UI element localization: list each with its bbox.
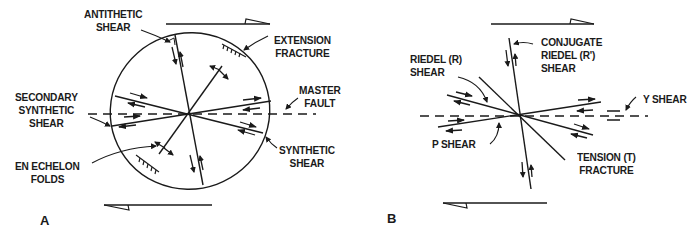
leader-p-shear	[490, 123, 499, 144]
panel-a-letter: A	[40, 213, 49, 228]
leader-antithetic	[141, 30, 170, 42]
label-synthetic-shear: SYNTHETIC SHEAR	[279, 144, 335, 170]
label-tension-fracture: TENSION (T) FRACTURE	[577, 151, 636, 177]
panel-b-letter: B	[387, 211, 396, 226]
label-extension-fracture: EXTENSION FRACTURE	[274, 34, 331, 60]
top-shear-arrow-right	[166, 19, 270, 24]
en-echelon-folds-symbol	[136, 155, 159, 174]
strike-slip-shear-diagram: ANTITHETIC SHEAR EXTENSION FRACTURE MAST…	[0, 0, 700, 239]
label-p-shear: P SHEAR	[432, 138, 476, 151]
leader-master-fault	[286, 98, 298, 109]
bottom-shear-arrow-left	[104, 205, 212, 210]
antithetic-shear-line	[175, 35, 203, 185]
leader-synthetic	[266, 137, 277, 148]
bottom-shear-arrow-left-b	[443, 203, 547, 208]
top-shear-arrow-right-b	[491, 19, 594, 24]
leader-extension	[244, 36, 268, 50]
leader-en-echelon	[92, 146, 156, 163]
leader-conjugate	[514, 43, 533, 45]
leader-y-shear	[626, 97, 636, 110]
label-conjugate-riedel-shear: CONJUGATE RIEDEL (R') SHEAR	[541, 36, 602, 75]
label-master-fault: MASTER FAULT	[299, 84, 341, 110]
label-riedel-shear: RIEDEL (R) SHEAR	[410, 53, 462, 79]
label-y-shear: Y SHEAR	[643, 93, 687, 106]
leader-secondary-synthetic	[90, 117, 110, 126]
label-en-echelon-folds: EN ECHELON FOLDS	[15, 160, 80, 186]
label-secondary-synthetic-shear: SECONDARY SYNTHETIC SHEAR	[15, 91, 78, 130]
label-antithetic-shear: ANTITHETIC SHEAR	[84, 8, 142, 34]
panel-b	[420, 19, 648, 208]
